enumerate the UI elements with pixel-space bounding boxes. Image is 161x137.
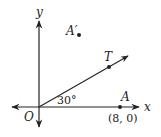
point-a-label: A [120,90,130,104]
point-a-prime-label: A′ [65,24,78,38]
point-a-coords: (8, 0) [108,112,138,125]
y-axis-label: y [35,5,43,19]
x-axis-label: x [144,100,151,114]
ray-ot [39,56,128,107]
point-t-label: T [104,50,113,64]
coordinate-diagram: y x O A (8, 0) A′ T 30° [0,0,161,137]
point-a-prime [77,33,81,37]
origin-label: O [24,110,34,124]
angle-label: 30° [57,94,77,107]
point-t [107,65,111,69]
point-a [118,105,122,109]
